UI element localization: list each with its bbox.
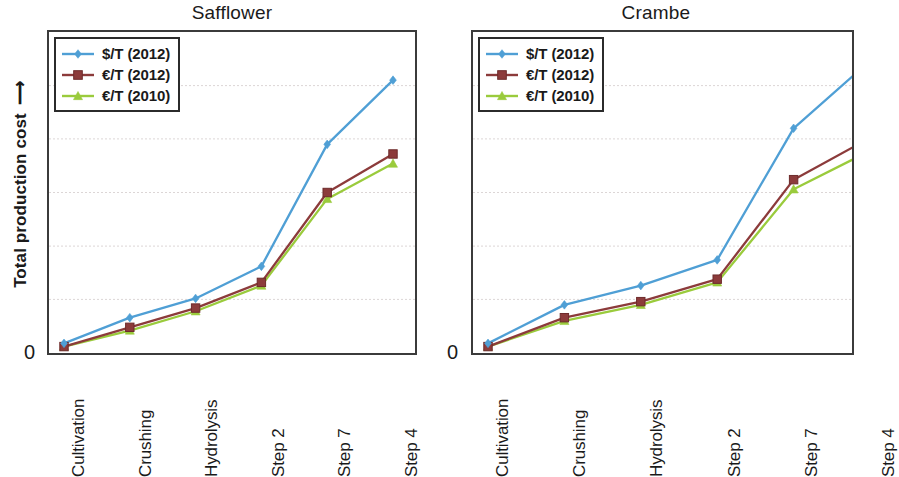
data-point-diamond: [561, 301, 568, 310]
x-tick-label: Step 4: [402, 359, 422, 477]
x-tick-label: Step 4: [879, 359, 899, 477]
data-point-square: [126, 323, 134, 331]
data-point-square: [257, 278, 265, 286]
x-tick-label: Cultivation: [69, 359, 89, 477]
data-point-square: [713, 275, 721, 283]
legend-item-triangle: €/T (2010): [485, 85, 594, 106]
legend-marker-triangle-icon: [61, 88, 95, 104]
data-point-square: [789, 175, 797, 183]
legend-marker-diamond-icon: [61, 46, 95, 62]
panel-title-safflower: Safflower: [47, 2, 417, 24]
series-line-square: [64, 154, 393, 347]
data-point-diamond: [192, 294, 199, 303]
x-tick-labels-crambe: CultivationCrushingHydrolysisStep 2Step …: [471, 364, 841, 477]
x-tick-label: Step 2: [725, 359, 745, 477]
data-point-triangle: [388, 159, 397, 167]
legend-marker-square-icon: [61, 67, 95, 83]
legend-label: €/T (2012): [102, 66, 170, 83]
legend-crambe: $/T (2012)€/T (2012)€/T (2010): [478, 37, 604, 112]
data-point-square: [560, 313, 568, 321]
x-tick-label: Crushing: [570, 359, 590, 477]
legend-safflower: $/T (2012)€/T (2012)€/T (2010): [54, 37, 180, 112]
x-tick-label: Hydrolysis: [647, 359, 667, 477]
legend-marker-triangle-icon: [485, 88, 519, 104]
legend-item-diamond: $/T (2012): [485, 43, 594, 64]
x-tick-label: Step 7: [802, 359, 822, 477]
x-tick-labels-safflower: CultivationCrushingHydrolysisStep 2Step …: [47, 364, 417, 477]
legend-item-square: €/T (2012): [485, 64, 594, 85]
x-tick-label: Cultivation: [493, 359, 513, 477]
panel-title-crambe: Crambe: [471, 2, 841, 24]
legend-item-triangle: €/T (2010): [61, 85, 170, 106]
data-point-diamond: [637, 281, 644, 290]
legend-marker-square-icon: [485, 67, 519, 83]
legend-label: $/T (2012): [526, 45, 594, 62]
legend-marker-diamond-icon: [485, 46, 519, 62]
data-point-square: [191, 304, 199, 312]
legend-item-square: €/T (2012): [61, 64, 170, 85]
legend-label: $/T (2012): [102, 45, 170, 62]
x-tick-label: Crushing: [136, 359, 156, 477]
data-point-square: [323, 188, 331, 196]
series-line-triangle: [64, 164, 393, 347]
x-tick-label: Step 7: [335, 359, 355, 477]
x-tick-label: Hydrolysis: [202, 359, 222, 477]
legend-label: €/T (2012): [526, 66, 594, 83]
legend-label: €/T (2010): [102, 87, 170, 104]
legend-label: €/T (2010): [526, 87, 594, 104]
legend-item-diamond: $/T (2012): [61, 43, 170, 64]
panel-safflower: Safflower $/T (2012)€/T (2012)€/T (2010)…: [0, 0, 430, 477]
x-tick-label: Step 2: [269, 359, 289, 477]
panel-crambe: Crambe $/T (2012)€/T (2012)€/T (2010) Cu…: [424, 0, 854, 477]
data-point-square: [389, 150, 397, 158]
data-point-diamond: [126, 313, 133, 322]
data-point-square: [637, 297, 645, 305]
series-line-diamond: [64, 80, 393, 343]
